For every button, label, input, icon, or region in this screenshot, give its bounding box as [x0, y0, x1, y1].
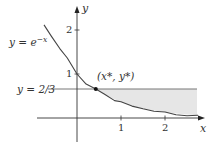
exponential-plot: y x 2 1 1 2 y = e−x y = 2/3 (x*, y*)	[0, 0, 213, 145]
y-tick-label-2: 2	[66, 24, 72, 35]
y-tick-label-1: 1	[66, 68, 72, 79]
curve-label: y = e−x	[8, 35, 48, 48]
x-axis-label: x	[200, 122, 207, 135]
shaded-region	[96, 89, 197, 115]
line-label: y = 2/3	[16, 83, 56, 95]
x-tick-label-2: 2	[162, 122, 168, 133]
y-axis-arrow-icon	[75, 6, 80, 13]
x-tick-label-1: 1	[118, 122, 124, 133]
x-axis-arrow-icon	[198, 116, 205, 121]
y-axis-label: y	[81, 2, 89, 15]
point-label: (x*, y*)	[97, 70, 134, 82]
intersection-point	[94, 87, 98, 91]
